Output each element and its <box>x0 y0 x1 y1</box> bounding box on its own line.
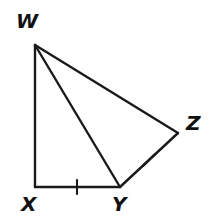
vertex-label-y: Y <box>112 194 126 214</box>
vertex-label-x: X <box>21 194 36 214</box>
tick-mark-YZ <box>143 154 155 166</box>
vertex-label-w: W <box>16 11 38 31</box>
segment-WZ <box>35 45 178 133</box>
segment-WY-diagonal <box>35 45 120 187</box>
vertex-label-z: Z <box>186 113 201 133</box>
figure-canvas <box>0 0 211 223</box>
geometry-figure: W X Y Z <box>0 0 211 223</box>
